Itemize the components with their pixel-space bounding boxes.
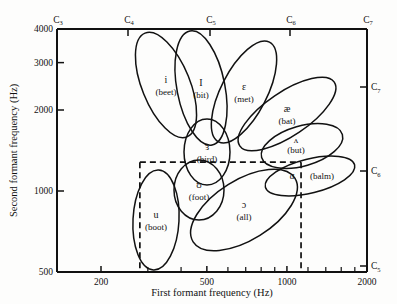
chart-canvas: 200500100020004000300020001000500C3C4C5C… (0, 0, 397, 304)
vowel-group-a: ɑ(balm) (261, 148, 358, 203)
y-tick-label-500: 500 (39, 267, 54, 277)
vowel-ellipse-aw (177, 153, 311, 267)
vowel-symbol-I: I (199, 77, 202, 88)
y-tick-label-2000: 2000 (34, 105, 53, 115)
x-tick-label-200: 200 (94, 277, 109, 287)
vowel-symbol-ae: æ (284, 103, 291, 114)
vowel-group-u: u(boot) (130, 169, 181, 271)
y-tick-label-1000: 1000 (34, 186, 53, 196)
vowel-ellipse-i (123, 24, 209, 146)
vowel-group-uh: ʌ(but) (256, 115, 348, 177)
vowel-ellipse-er (184, 119, 230, 185)
vowel-word-E: (met) (234, 94, 254, 104)
vowel-word-I: (bit) (193, 90, 209, 100)
vowel-word-er: (bird) (197, 154, 218, 164)
right-axis-label-C7: C7 (371, 82, 381, 93)
y-tick-label-4000: 4000 (34, 24, 53, 34)
vowel-group-er: ɜ(bird) (184, 119, 230, 185)
vowel-word-i: (beet) (156, 87, 177, 97)
vowel-ellipse-u (130, 169, 181, 271)
x-tick-label-2000: 2000 (358, 277, 377, 287)
vowel-ellipse-E (198, 32, 290, 153)
x-axis-title: First formant frequency (Hz) (151, 287, 273, 299)
vowel-symbol-uh: ʌ (294, 135, 299, 145)
vowel-symbol-u: u (154, 209, 159, 220)
vowel-formant-chart: 200500100020004000300020001000500C3C4C5C… (0, 0, 397, 304)
x-tick-label-500: 500 (200, 277, 215, 287)
y-tick-label-3000: 3000 (34, 58, 53, 68)
vowel-group-E: ɛ(met) (198, 32, 290, 153)
top-axis-label-C3: C3 (53, 15, 63, 26)
right-axis-label-C5: C5 (371, 261, 381, 272)
top-axis-label-C6: C6 (286, 15, 296, 26)
right-axis-label-C6: C6 (371, 166, 381, 177)
vowel-word-uh: (but) (287, 145, 305, 155)
vowel-group-aw: ɔ(all) (177, 153, 311, 267)
vowel-symbol-er: ɜ (205, 141, 209, 152)
top-axis-label-C7: C7 (363, 15, 373, 26)
y-axis-title: Second formant frequency (Hz) (8, 83, 20, 217)
top-axis-label-C5: C5 (206, 15, 216, 26)
vowel-symbol-U: ʊ (196, 179, 202, 190)
vowel-symbol-aw: ɔ (242, 199, 247, 210)
vowel-word-ae: (bat) (279, 116, 296, 126)
vowel-word-aw: (all) (237, 212, 252, 222)
vowel-word-a: (balm) (310, 171, 334, 181)
vowel-symbol-E: ɛ (242, 81, 246, 92)
vowel-symbol-i: i (165, 74, 168, 85)
vowel-word-U: (foot) (189, 192, 210, 202)
vowel-word-u: (boot) (145, 222, 167, 232)
top-axis-label-C4: C4 (124, 15, 134, 26)
x-tick-label-1000: 1000 (277, 277, 296, 287)
vowel-group-i: i(beet) (123, 24, 209, 146)
